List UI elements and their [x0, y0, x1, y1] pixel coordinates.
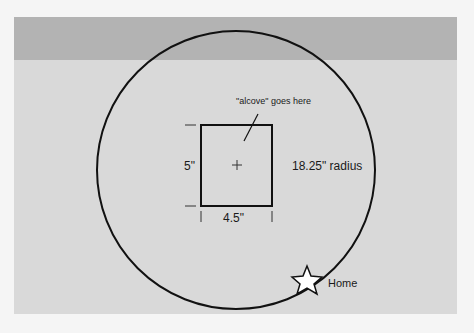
annotation-leader [244, 114, 258, 141]
home-label: Home [328, 277, 357, 289]
radius-label: 18.25" radius [292, 159, 362, 173]
width-label: 4.5" [223, 211, 244, 225]
alcove-annotation: "alcove" goes here [236, 96, 311, 106]
diagram-canvas [0, 0, 474, 333]
height-label: 5" [184, 159, 195, 173]
